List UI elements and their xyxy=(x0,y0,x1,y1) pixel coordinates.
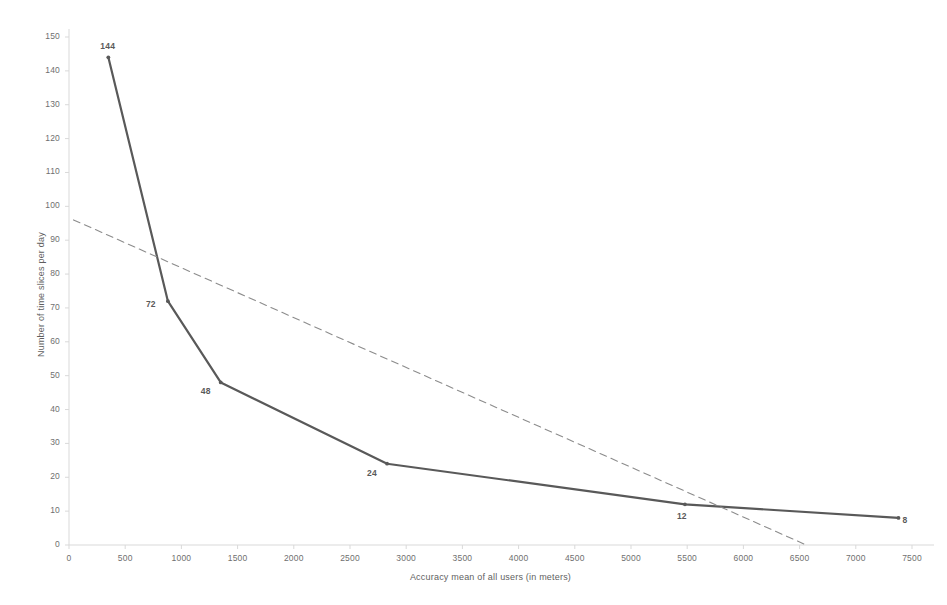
x-tick-label: 1000 xyxy=(151,553,211,563)
x-tick-label: 500 xyxy=(95,553,155,563)
data-point-marker xyxy=(166,299,170,303)
y-tick-label: 10 xyxy=(0,505,60,515)
y-tick-label: 70 xyxy=(0,302,60,312)
data-point-marker xyxy=(106,55,110,59)
y-tick-label: 140 xyxy=(0,65,60,75)
y-tick-label: 110 xyxy=(0,166,60,176)
x-tick-label: 4000 xyxy=(489,553,549,563)
x-tick-label: 3000 xyxy=(376,553,436,563)
data-point-marker xyxy=(897,516,901,520)
point-value-label: 8 xyxy=(903,515,908,525)
x-tick-label: 3500 xyxy=(432,553,492,563)
x-tick-label: 0 xyxy=(39,553,99,563)
x-tick-label: 5000 xyxy=(601,553,661,563)
data-point-marker xyxy=(385,462,389,466)
data-point-marker xyxy=(683,502,687,506)
y-tick-label: 120 xyxy=(0,133,60,143)
point-value-label: 144 xyxy=(100,41,115,51)
y-tick-label: 80 xyxy=(0,268,60,278)
x-tick-label: 2500 xyxy=(320,553,380,563)
series-trendline xyxy=(74,220,807,545)
point-value-label: 72 xyxy=(146,299,156,309)
y-tick-label: 50 xyxy=(0,370,60,380)
x-tick-label: 7000 xyxy=(826,553,886,563)
x-tick-label: 4500 xyxy=(545,553,605,563)
y-tick-label: 130 xyxy=(0,99,60,109)
point-value-label: 12 xyxy=(677,511,687,521)
y-axis-title: Number of time slices per day xyxy=(36,232,46,357)
point-value-label: 48 xyxy=(201,386,211,396)
x-tick-label: 2000 xyxy=(264,553,324,563)
x-tick-label: 6000 xyxy=(713,553,773,563)
plot-area xyxy=(0,0,947,605)
y-tick-label: 30 xyxy=(0,437,60,447)
x-tick-label: 7500 xyxy=(882,553,942,563)
data-point-marker xyxy=(219,381,223,385)
y-tick-label: 100 xyxy=(0,200,60,210)
chart-container: 0102030405060708090100110120130140150 05… xyxy=(0,0,947,605)
point-value-label: 24 xyxy=(367,468,377,478)
chart-svg xyxy=(0,0,947,605)
x-tick-label: 6500 xyxy=(770,553,830,563)
y-tick-label: 40 xyxy=(0,404,60,414)
x-tick-label: 1500 xyxy=(208,553,268,563)
y-tick-label: 20 xyxy=(0,471,60,481)
y-tick-label: 60 xyxy=(0,336,60,346)
y-tick-label: 90 xyxy=(0,234,60,244)
x-tick-label: 5500 xyxy=(657,553,717,563)
y-tick-label: 150 xyxy=(0,31,60,41)
y-tick-label: 0 xyxy=(0,539,60,549)
x-axis-title: Accuracy mean of all users (in meters) xyxy=(381,572,601,582)
